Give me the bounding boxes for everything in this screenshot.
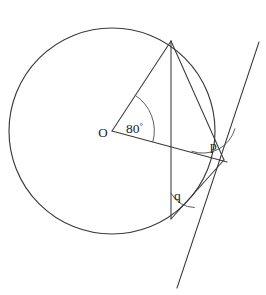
radius-to-top-point [112,41,171,131]
central-angle-value: 80 [126,121,140,136]
geometry-diagram-root: O 80° p q [0,0,266,295]
centre-label: O [98,125,107,140]
central-angle-label: 80° [126,121,144,136]
geometry-canvas: O 80° p q [0,0,266,295]
angle-q-label: q [174,188,181,203]
tangent-line [177,42,259,288]
degree-symbol: ° [140,121,144,131]
angle-p-label: p [210,138,217,153]
